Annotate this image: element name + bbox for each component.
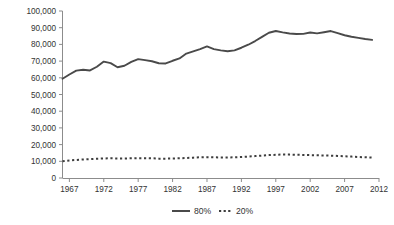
legend: 80% 20% [172, 206, 254, 216]
x-tick-label: 1972 [95, 185, 114, 194]
y-tick-label: 30,000 [31, 124, 56, 133]
series-line-80 [63, 31, 373, 79]
x-axis: 1967197219771982198719921997200220072012 [60, 178, 388, 194]
y-tick-label: 80,000 [31, 40, 56, 49]
y-tick-label: 10,000 [31, 157, 56, 166]
y-tick-label: 90,000 [31, 24, 56, 33]
legend-label-20: 20% [236, 206, 254, 216]
x-tick-label: 2002 [301, 185, 320, 194]
y-tick-label: 0 [51, 174, 56, 183]
y-tick-label: 50,000 [31, 91, 56, 100]
y-tick-label: 100,000 [26, 7, 56, 16]
y-axis: 010,00020,00030,00040,00050,00060,00070,… [26, 7, 62, 183]
line-chart: 010,00020,00030,00040,00050,00060,00070,… [0, 0, 394, 225]
x-tick-label: 2012 [370, 185, 389, 194]
chart-canvas: 010,00020,00030,00040,00050,00060,00070,… [0, 0, 394, 225]
x-tick-label: 2007 [335, 185, 354, 194]
y-tick-label: 60,000 [31, 74, 56, 83]
x-tick-label: 1967 [60, 185, 79, 194]
x-tick-label: 1997 [267, 185, 286, 194]
legend-label-80: 80% [194, 206, 212, 216]
x-tick-label: 1987 [198, 185, 217, 194]
y-tick-label: 70,000 [31, 57, 56, 66]
x-tick-label: 1977 [129, 185, 148, 194]
y-tick-group [59, 11, 63, 178]
y-tick-label-group: 010,00020,00030,00040,00050,00060,00070,… [26, 7, 56, 183]
y-tick-label: 40,000 [31, 107, 56, 116]
x-tick-label: 1992 [232, 185, 251, 194]
y-tick-label: 20,000 [31, 141, 56, 150]
series-line-20 [63, 154, 373, 161]
x-tick-label-group: 1967197219771982198719921997200220072012 [60, 185, 388, 194]
x-tick-label: 1982 [163, 185, 182, 194]
plot-series-group [63, 31, 373, 161]
